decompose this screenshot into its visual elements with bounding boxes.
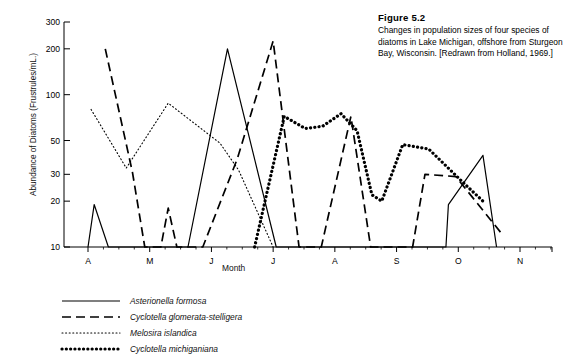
y-axis-title: Abundance of Diatoms (Frustrules/mL.) [29, 30, 38, 220]
legend-swatch-solid [60, 295, 122, 307]
legend-item: Cyclotella michiganiana [60, 341, 390, 355]
figure-container: 10203050100200300AMJJASON Abundance of D… [0, 0, 573, 355]
x-tick-label: A [85, 256, 91, 266]
x-tick-label: M [146, 256, 153, 266]
x-axis-title: Month [222, 263, 245, 273]
legend-swatch-thick-dotted [60, 343, 122, 355]
x-tick-label: J [209, 256, 213, 266]
chart-legend: Asterionella formosaCyclotella glomerata… [60, 293, 390, 355]
legend-label: Cyclotella michiganiana [130, 344, 218, 354]
y-tick-label: 200 [46, 44, 61, 54]
legend-swatch-dotted [60, 327, 122, 339]
x-tick-label: S [394, 256, 400, 266]
figure-number: Figure 5.2 [378, 12, 564, 23]
y-tick-label: 300 [46, 17, 61, 27]
y-tick-label: 100 [46, 90, 61, 100]
x-tick-label: J [271, 256, 275, 266]
series-line [255, 114, 483, 247]
y-tick-label: 10 [50, 242, 60, 252]
x-tick-label: N [517, 256, 523, 266]
legend-item: Cyclotella glomerata-stelligera [60, 309, 390, 325]
legend-label: Cyclotella glomerata-stelligera [130, 312, 242, 322]
legend-label: Melosira islandica [130, 328, 197, 338]
x-tick-label: A [332, 256, 338, 266]
legend-item: Melosira islandica [60, 325, 390, 341]
legend-item: Asterionella formosa [60, 293, 390, 309]
y-tick-label: 50 [50, 136, 60, 146]
x-tick-label: O [455, 256, 462, 266]
y-tick-label: 20 [50, 196, 60, 206]
figure-caption-text: Changes in population sizes of four spec… [378, 25, 564, 59]
series-line [88, 49, 497, 247]
legend-swatch-dashed [60, 311, 122, 323]
series-line [105, 41, 502, 247]
y-tick-label: 30 [50, 169, 60, 179]
legend-label: Asterionella formosa [130, 296, 206, 306]
figure-caption: Figure 5.2 Changes in population sizes o… [378, 12, 564, 60]
